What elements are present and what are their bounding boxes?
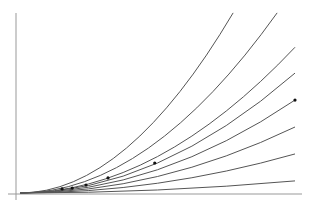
data-point-marker [153,161,156,164]
curve-3-line [20,47,295,193]
data-point-marker [106,176,109,179]
curve-2-line [20,13,277,193]
data-point-marker [84,183,87,186]
data-point-marker [293,98,296,101]
data-point-marker [60,187,63,190]
data-point-marker [71,186,74,189]
curve-4-line [20,73,295,193]
curve-5-line [20,100,295,193]
curve-7-line [20,154,295,193]
curve-group [20,13,295,193]
chart-canvas [0,0,311,209]
